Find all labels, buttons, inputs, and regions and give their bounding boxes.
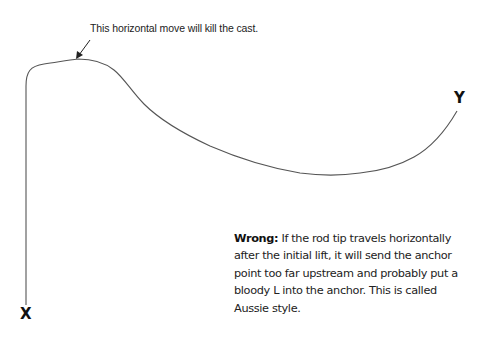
annotation-arrow [76,40,90,59]
annotation-text: This horizontal move will kill the cast. [90,22,258,34]
start-point-label: X [20,305,32,323]
caption: Wrong: If the rod tip travels horizontal… [234,230,474,317]
caption-lead: Wrong: [234,232,278,245]
end-point-label: Y [454,89,465,107]
